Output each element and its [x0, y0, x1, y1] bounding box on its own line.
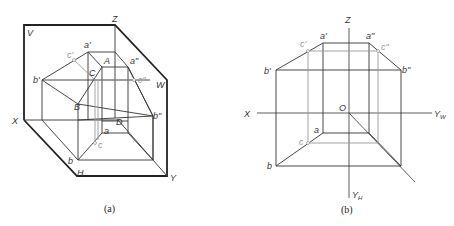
label-b-prime: b' — [33, 75, 40, 85]
label-a-prime-b: a' — [320, 31, 327, 41]
label-a-dprime: a" — [130, 56, 139, 66]
point-c — [94, 142, 97, 145]
label-a-dprime-b: a" — [366, 31, 375, 41]
label-V: V — [27, 28, 34, 38]
label-X: X — [11, 116, 19, 126]
point-c-dprime-b — [377, 50, 380, 53]
label-c-dprime-b: c" — [381, 42, 390, 52]
point-c-b — [307, 142, 310, 145]
point-c-dprime — [133, 79, 136, 82]
label-a: a — [104, 126, 109, 136]
label-Z-b: Z — [344, 15, 351, 25]
label-c-dprime: c" — [138, 75, 147, 85]
label-B: B — [74, 102, 80, 112]
label-b-dprime-b: b" — [402, 65, 411, 75]
label-H: H — [77, 168, 84, 178]
projection-diagrams: V Z W X H Y a' c' b' A a" c" C B b" D a … — [0, 0, 454, 226]
point-c-prime-b — [307, 50, 310, 53]
label-X-b: X — [243, 109, 251, 119]
label-a-prime: a' — [84, 40, 91, 50]
label-O-b: O — [339, 103, 346, 113]
label-YW-b: YW — [434, 109, 447, 120]
label-c-prime-b: c' — [300, 39, 307, 49]
diagonal-45-line — [349, 113, 415, 182]
label-c: c — [98, 140, 103, 150]
label-b-b: b — [267, 161, 272, 171]
label-Y: Y — [170, 173, 177, 183]
label-b-dprime: b" — [153, 111, 162, 121]
label-C: C — [89, 68, 96, 78]
caption-b: (b) — [341, 204, 353, 216]
label-b: b — [68, 156, 73, 166]
label-a-b: a — [314, 125, 319, 135]
figure-a: V Z W X H Y a' c' b' A a" c" C B b" D a … — [11, 14, 177, 215]
label-A: A — [103, 56, 110, 66]
caption-a: (a) — [104, 203, 115, 215]
label-b-prime-b: b' — [264, 66, 271, 76]
label-W: W — [156, 80, 166, 90]
label-Z: Z — [111, 14, 118, 24]
figure-b: Z X O YW YH a' c' b' a" c" b" a c b (b) — [243, 15, 447, 216]
label-c-prime: c' — [67, 50, 74, 60]
label-c-b: c — [299, 137, 304, 147]
label-YH-b: YH — [352, 190, 363, 201]
label-D: D — [116, 117, 123, 127]
